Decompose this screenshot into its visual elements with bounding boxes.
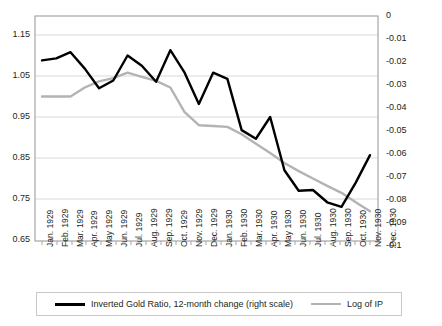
- x-tick-label: Nov. 1929: [195, 209, 204, 247]
- gray-line-swatch-icon: [311, 303, 341, 305]
- plot-area: [0, 0, 442, 326]
- x-tick-label: Mar. 1929: [76, 209, 85, 247]
- x-tick-label: Oct. 1930: [359, 210, 368, 247]
- x-tick-label: Jul. 1930: [314, 213, 323, 248]
- legend-label: Inverted Gold Ratio, 12-month change (ri…: [91, 299, 293, 309]
- x-tick-label: Apr. 1930: [270, 211, 279, 247]
- x-tick-label: Dec. 1930: [389, 208, 398, 247]
- x-tick-label: Feb. 1930: [240, 209, 249, 247]
- x-tick-label: Aug. 1929: [150, 208, 159, 247]
- x-tick-label: May 1930: [284, 210, 293, 247]
- x-tick-label: Jan. 1929: [46, 210, 55, 247]
- x-tick-label: Mar. 1930: [255, 209, 264, 247]
- x-tick-label: Jun. 1930: [299, 210, 308, 247]
- x-tick-label: Aug. 1930: [329, 208, 338, 247]
- x-tick-label: Sep. 1929: [165, 208, 174, 247]
- x-tick-label: Oct. 1929: [180, 210, 189, 247]
- x-tick-label: Feb. 1929: [61, 209, 70, 247]
- gridlines: [35, 35, 378, 199]
- x-tick-label: May 1929: [105, 210, 114, 247]
- x-tick-label: Jun. 1929: [120, 210, 129, 247]
- x-tick-label: Jul. 1929: [135, 213, 144, 248]
- legend-entry-inverted-gold-ratio[interactable]: Inverted Gold Ratio, 12-month change (ri…: [55, 299, 293, 309]
- legend-label: Log of IP: [347, 299, 383, 309]
- black-line-swatch-icon: [55, 303, 85, 306]
- chart-legend: Inverted Gold Ratio, 12-month change (ri…: [36, 292, 402, 316]
- x-tick-label: Sep. 1930: [344, 208, 353, 247]
- legend-entry-log-of-ip[interactable]: Log of IP: [311, 299, 383, 309]
- x-tick-label: Nov. 1930: [374, 209, 383, 247]
- x-tick-label: Jan. 1930: [225, 210, 234, 247]
- series-line-log-of-ip: [42, 73, 370, 212]
- x-tick-label: Dec. 1929: [210, 208, 219, 247]
- x-tick-label: Apr. 1929: [90, 211, 99, 247]
- chart-container: 1.15 1.05 0.95 0.85 0.75 0.65 0 -0.01 -0…: [0, 0, 442, 326]
- plot-frame: [35, 16, 378, 241]
